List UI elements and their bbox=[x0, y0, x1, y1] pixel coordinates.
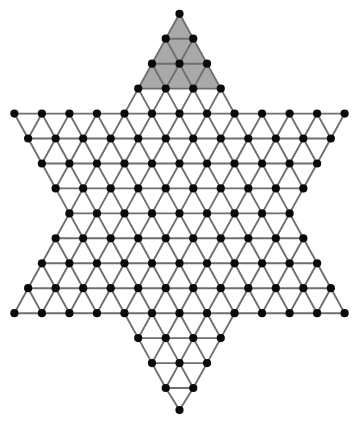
lattice-edge bbox=[276, 238, 290, 263]
lattice-vertex bbox=[217, 85, 225, 93]
lattice-vertex bbox=[52, 284, 60, 292]
lattice-edge bbox=[193, 89, 207, 114]
lattice-vertex bbox=[175, 110, 183, 118]
lattice-vertex bbox=[93, 110, 101, 118]
lattice-edge bbox=[97, 238, 111, 263]
lattice-vertex bbox=[217, 134, 225, 142]
lattice-edge bbox=[331, 288, 345, 313]
lattice-edge bbox=[180, 263, 194, 288]
lattice-edge bbox=[152, 89, 166, 114]
lattice-edge bbox=[166, 288, 180, 313]
lattice-vertex bbox=[148, 309, 156, 317]
lattice-edge bbox=[262, 188, 276, 213]
lattice-vertex bbox=[93, 209, 101, 217]
shaded-faces-layer bbox=[138, 14, 221, 89]
lattice-edge bbox=[276, 213, 290, 238]
lattice-edge bbox=[166, 89, 180, 114]
lattice-edge bbox=[248, 263, 262, 288]
lattice-vertex bbox=[175, 159, 183, 167]
lattice-edge bbox=[193, 213, 207, 238]
lattice-vertex bbox=[203, 309, 211, 317]
lattice-edge bbox=[138, 213, 152, 238]
lattice-vertex bbox=[93, 259, 101, 267]
lattice-vertex bbox=[148, 110, 156, 118]
lattice-edge bbox=[221, 263, 235, 288]
lattice-edge bbox=[69, 288, 83, 313]
lattice-vertex bbox=[38, 259, 46, 267]
lattice-edge bbox=[14, 288, 28, 313]
lattice-vertex bbox=[258, 159, 266, 167]
lattice-edge bbox=[83, 164, 97, 189]
lattice-edge bbox=[166, 313, 180, 338]
lattice-edge bbox=[69, 114, 83, 139]
lattice-edge bbox=[97, 188, 111, 213]
lattice-edge bbox=[221, 114, 235, 139]
lattice-edge bbox=[166, 338, 180, 363]
lattice-edge bbox=[56, 139, 70, 164]
lattice-edge bbox=[166, 164, 180, 189]
lattice-edge bbox=[303, 288, 317, 313]
lattice-edge bbox=[248, 114, 262, 139]
lattice-edge bbox=[207, 263, 221, 288]
star-of-david-lattice-graph: Hexagram (Star of David) triangular latt… bbox=[0, 0, 362, 424]
lattice-vertex bbox=[244, 284, 252, 292]
lattice-edge bbox=[303, 139, 317, 164]
lattice-edge bbox=[193, 338, 207, 363]
lattice-edge bbox=[193, 238, 207, 263]
lattice-vertex bbox=[175, 309, 183, 317]
lattice-edge bbox=[152, 263, 166, 288]
lattice-vertex bbox=[24, 134, 32, 142]
lattice-edge bbox=[97, 139, 111, 164]
lattice-edge bbox=[290, 263, 304, 288]
lattice-vertex bbox=[134, 184, 142, 192]
lattice-edge bbox=[235, 164, 249, 189]
lattice-edge bbox=[138, 188, 152, 213]
lattice-edge bbox=[83, 263, 97, 288]
lattice-edge bbox=[69, 188, 83, 213]
lattice-edge bbox=[221, 139, 235, 164]
lattice-vertex bbox=[217, 234, 225, 242]
lattice-edge bbox=[180, 313, 194, 338]
lattice-edge bbox=[180, 164, 194, 189]
lattice-edge bbox=[124, 114, 138, 139]
lattice-edge bbox=[166, 114, 180, 139]
lattice-vertex bbox=[313, 259, 321, 267]
lattice-edge bbox=[83, 114, 97, 139]
lattice-vertex bbox=[189, 184, 197, 192]
lattice-vertex bbox=[217, 284, 225, 292]
lattice-vertex bbox=[175, 359, 183, 367]
lattice-edge bbox=[152, 313, 166, 338]
lattice-vertex bbox=[79, 184, 87, 192]
lattice-vertex bbox=[230, 110, 238, 118]
lattice-vertex bbox=[313, 110, 321, 118]
lattice-vertex bbox=[189, 234, 197, 242]
lattice-edge bbox=[248, 288, 262, 313]
lattice-edge bbox=[262, 288, 276, 313]
lattice-vertex bbox=[175, 60, 183, 68]
lattice-edge bbox=[124, 238, 138, 263]
lattice-vertex bbox=[258, 259, 266, 267]
lattice-vertex bbox=[10, 309, 18, 317]
lattice-vertex bbox=[230, 259, 238, 267]
lattice-edge bbox=[248, 213, 262, 238]
lattice-edge bbox=[56, 263, 70, 288]
lattice-vertex bbox=[79, 284, 87, 292]
lattice-edge bbox=[221, 313, 235, 338]
lattice-edge bbox=[124, 164, 138, 189]
lattice-vertex bbox=[175, 259, 183, 267]
lattice-edge bbox=[207, 338, 221, 363]
lattice-edge bbox=[235, 288, 249, 313]
lattice-vertex bbox=[285, 110, 293, 118]
lattice-edge bbox=[97, 213, 111, 238]
lattice-vertex bbox=[299, 234, 307, 242]
lattice-vertex bbox=[65, 259, 73, 267]
lattice-edge bbox=[83, 288, 97, 313]
lattice-edge bbox=[152, 139, 166, 164]
lattice-edge bbox=[124, 213, 138, 238]
lattice-edge bbox=[138, 338, 152, 363]
lattice-edge bbox=[166, 188, 180, 213]
lattice-edge bbox=[152, 188, 166, 213]
lattice-edge bbox=[221, 188, 235, 213]
lattice-edge bbox=[290, 288, 304, 313]
lattice-vertex bbox=[65, 209, 73, 217]
